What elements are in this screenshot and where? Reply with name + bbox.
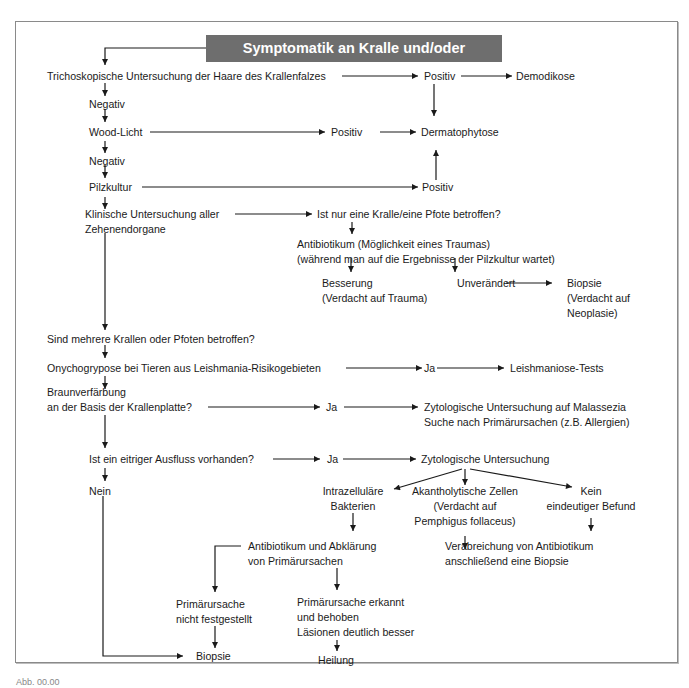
node-improvement-1: Besserung bbox=[322, 276, 373, 291]
node-primary-found-1: Primärursache erkannt bbox=[297, 595, 404, 610]
node-unchanged: Unverändert bbox=[457, 276, 515, 291]
node-leishmaniasis-tests: Leishmaniose-Tests bbox=[510, 361, 604, 376]
node-improvement-2: (Verdacht auf Trauma) bbox=[322, 291, 427, 306]
node-malassezia-2: Suche nach Primärursachen (z.B. Allergie… bbox=[424, 415, 630, 430]
node-wood-positive: Positiv bbox=[331, 125, 362, 140]
node-biopsy-neo-2: (Verdacht auf bbox=[567, 291, 630, 306]
node-administer-1: Verabreichung von Antibiotikum bbox=[445, 539, 593, 554]
figure-caption: Abb. 00.00 bbox=[16, 677, 60, 687]
node-negative-1: Negativ bbox=[89, 97, 125, 112]
node-no: Nein bbox=[89, 484, 111, 499]
node-primary-not-found-1: Primärursache bbox=[176, 597, 245, 612]
node-brown-discoloration-1: Braunverfärbung bbox=[47, 385, 126, 400]
node-biopsy: Biopsie bbox=[196, 649, 231, 664]
node-dermatophytose: Dermatophytose bbox=[421, 125, 499, 140]
node-purulent-discharge: Ist ein eitriger Ausfluss vorhanden? bbox=[89, 452, 254, 467]
node-biopsy-neo-1: Biopsie bbox=[567, 276, 602, 291]
node-no-finding-1: Kein bbox=[536, 484, 646, 499]
node-fungal-culture: Pilzkultur bbox=[89, 180, 132, 195]
node-discharge-yes: Ja bbox=[327, 452, 338, 467]
node-negative-2: Negativ bbox=[89, 154, 125, 169]
node-antibiotic-2: (während man auf die Ergebnisse der Pilz… bbox=[297, 252, 555, 267]
node-acantholytic-3: Pemphigus follaceus) bbox=[402, 514, 528, 529]
node-no-finding-2: eindeutiger Befund bbox=[536, 499, 646, 514]
node-primary-found-3: Läsionen deutlich besser bbox=[297, 625, 414, 640]
node-onycho-yes: Ja bbox=[424, 361, 435, 376]
node-primary-found-2: und behoben bbox=[297, 610, 359, 625]
node-acantholytic-1: Akantholytische Zellen bbox=[402, 484, 528, 499]
node-single-claw: Ist nur eine Kralle/eine Pfote betroffen… bbox=[317, 207, 501, 222]
node-trichoscopy: Trichoskopische Untersuchung der Haare d… bbox=[47, 69, 326, 84]
node-wood-light: Wood-Licht bbox=[89, 125, 142, 140]
node-antibiotic-primary-1: Antibiotikum und Abklärung bbox=[248, 539, 376, 554]
node-antibiotic-primary-2: von Primärursachen bbox=[248, 554, 343, 569]
node-tricho-positive: Positiv bbox=[424, 69, 455, 84]
node-administer-2: anschließend eine Biopsie bbox=[445, 554, 569, 569]
node-acantholytic-2: (Verdacht auf bbox=[402, 499, 528, 514]
node-brown-discoloration-2: an der Basis der Krallenplatte? bbox=[47, 400, 192, 415]
node-biopsy-neo-3: Neoplasie) bbox=[567, 306, 618, 321]
node-multiple-claws: Sind mehrere Krallen oder Pfoten betroff… bbox=[47, 332, 255, 347]
node-antibiotic-1: Antibiotikum (Möglichkeit eines Traumas) bbox=[297, 237, 490, 252]
node-malassezia-1: Zytologische Untersuchung auf Malassezia bbox=[424, 400, 626, 415]
node-intracellular-2: Bakterien bbox=[310, 499, 396, 514]
node-cytology: Zytologische Untersuchung bbox=[421, 452, 549, 467]
node-culture-positive: Positiv bbox=[422, 180, 453, 195]
node-brown-yes: Ja bbox=[326, 400, 337, 415]
node-onychogryposis: Onychogryposе bei Tieren aus Leishmania-… bbox=[47, 361, 321, 376]
node-clinical-exam-2: Zehenendorgane bbox=[85, 222, 166, 237]
node-clinical-exam-1: Klinische Untersuchung aller bbox=[85, 207, 219, 222]
node-primary-not-found-2: nicht festgestellt bbox=[176, 612, 252, 627]
node-intracellular-1: Intrazelluläre bbox=[310, 484, 396, 499]
node-demodikose: Demodikose bbox=[516, 69, 575, 84]
node-healing: Heilung bbox=[318, 653, 354, 668]
